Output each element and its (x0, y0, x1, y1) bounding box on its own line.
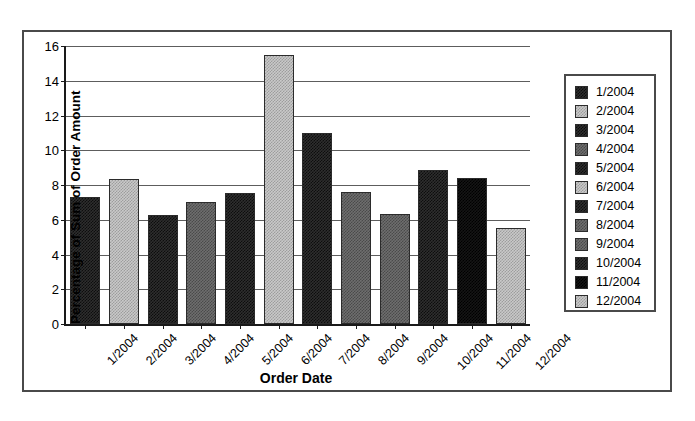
bar[interactable] (496, 228, 526, 324)
legend-item[interactable]: 5/2004 (575, 159, 654, 178)
x-tick-mark (163, 324, 164, 329)
x-tick-label: 2/2004 (143, 331, 180, 368)
bar[interactable] (264, 55, 294, 324)
x-tick-mark (472, 324, 473, 329)
x-tick-mark (85, 324, 86, 329)
x-tick-mark (511, 324, 512, 329)
y-tick-label: 12 (45, 109, 59, 122)
y-tick-label: 4 (52, 248, 59, 261)
legend-swatch (575, 200, 588, 213)
legend-label: 11/2004 (596, 276, 640, 289)
x-tick-mark (395, 324, 396, 329)
x-tick-mark (356, 324, 357, 329)
y-tick-mark (61, 185, 66, 186)
legend-swatch (575, 124, 588, 137)
x-tick-mark (240, 324, 241, 329)
legend-label: 6/2004 (596, 181, 634, 194)
legend-swatch (575, 105, 588, 118)
legend-swatch (575, 238, 588, 251)
legend-swatch (575, 143, 588, 156)
legend-label: 1/2004 (596, 86, 634, 99)
bar[interactable] (186, 202, 216, 324)
y-tick-label: 6 (52, 213, 59, 226)
legend-label: 3/2004 (596, 124, 634, 137)
x-tick-mark (279, 324, 280, 329)
y-tick-mark (61, 255, 66, 256)
legend-swatch (575, 219, 588, 232)
legend-label: 2/2004 (596, 105, 634, 118)
gridline (66, 150, 530, 151)
legend-item[interactable]: 8/2004 (575, 216, 654, 235)
y-tick-mark (61, 81, 66, 82)
x-tick-mark (433, 324, 434, 329)
y-tick-label: 16 (45, 40, 59, 53)
bar[interactable] (302, 133, 332, 324)
x-tick-label: 8/2004 (375, 331, 412, 368)
bar[interactable] (225, 193, 255, 324)
y-tick-label: 8 (52, 179, 59, 192)
y-axis-title: Percentage of Sum of Order Amount (68, 46, 83, 324)
x-tick-mark (201, 324, 202, 329)
legend-item[interactable]: 6/2004 (575, 178, 654, 197)
legend-swatch (575, 295, 588, 308)
legend-item[interactable]: 3/2004 (575, 121, 654, 140)
legend-swatch (575, 162, 588, 175)
gridline (66, 81, 530, 82)
y-tick-mark (61, 324, 66, 325)
legend-label: 10/2004 (596, 257, 641, 270)
x-tick-label: 5/2004 (259, 331, 296, 368)
legend-label: 4/2004 (596, 143, 634, 156)
legend-swatch (575, 257, 588, 270)
bar[interactable] (418, 170, 448, 324)
legend-label: 8/2004 (596, 219, 634, 232)
x-tick-label: 1/2004 (105, 331, 142, 368)
y-tick-mark (61, 150, 66, 151)
legend-item[interactable]: 12/2004 (575, 292, 654, 311)
bar[interactable] (341, 192, 371, 324)
legend-item[interactable]: 9/2004 (575, 235, 654, 254)
legend-item[interactable]: 1/2004 (575, 83, 654, 102)
x-tick-mark (124, 324, 125, 329)
x-tick-label: 12/2004 (532, 331, 574, 373)
gridline (66, 46, 530, 47)
y-tick-label: 0 (52, 318, 59, 331)
plot-area: 02468101214161/20042/20043/20044/20045/2… (64, 46, 530, 326)
y-tick-mark (61, 220, 66, 221)
x-axis-title: Order Date (64, 370, 528, 386)
bar[interactable] (380, 214, 410, 324)
x-tick-label: 3/2004 (182, 331, 219, 368)
legend-item[interactable]: 11/2004 (575, 273, 654, 292)
legend-swatch (575, 181, 588, 194)
legend-swatch (575, 276, 588, 289)
x-tick-label: 10/2004 (455, 331, 497, 373)
legend-item[interactable]: 2/2004 (575, 102, 654, 121)
x-tick-label: 9/2004 (414, 331, 451, 368)
y-tick-label: 14 (45, 74, 59, 87)
y-tick-mark (61, 289, 66, 290)
legend-item[interactable]: 10/2004 (575, 254, 654, 273)
y-tick-label: 10 (45, 144, 59, 157)
x-tick-label: 7/2004 (337, 331, 374, 368)
legend-label: 5/2004 (596, 162, 634, 175)
x-tick-label: 4/2004 (221, 331, 258, 368)
gridline (66, 116, 530, 117)
bar[interactable] (148, 215, 178, 324)
x-tick-mark (317, 324, 318, 329)
bar[interactable] (109, 179, 139, 324)
bar[interactable] (457, 178, 487, 324)
legend-swatch (575, 86, 588, 99)
chart-frame: 02468101214161/20042/20043/20044/20045/2… (22, 30, 672, 392)
y-tick-mark (61, 116, 66, 117)
x-tick-label: 11/2004 (493, 331, 534, 372)
legend-label: 7/2004 (596, 200, 634, 213)
y-tick-mark (61, 46, 66, 47)
legend-item[interactable]: 7/2004 (575, 197, 654, 216)
legend-label: 9/2004 (596, 238, 634, 251)
x-tick-label: 6/2004 (298, 331, 335, 368)
chart-legend: 1/20042/20043/20044/20045/20046/20047/20… (564, 74, 656, 312)
legend-label: 12/2004 (596, 295, 641, 308)
y-tick-label: 2 (52, 283, 59, 296)
legend-item[interactable]: 4/2004 (575, 140, 654, 159)
